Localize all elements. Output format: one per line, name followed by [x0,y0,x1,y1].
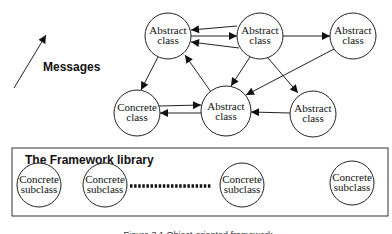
svg-text:subclass: subclass [87,183,124,195]
subclass-node: Concrete subclass [17,163,61,207]
figure-caption: Figure 3.1 Object-oriented framework [123,230,273,234]
edge-c1-a4 [159,105,201,106]
messages-label: Messages [43,60,101,74]
class-node-c1: Concrete class [114,90,160,136]
edge-a2-a5 [268,58,298,93]
class-node-a1: Abstract class [145,13,191,59]
edge-a1-c1 [141,57,158,90]
svg-text:class: class [342,34,363,46]
edge-a2-a4 [231,57,250,86]
class-node-a4: Abstract class [201,86,251,136]
svg-text:class: class [249,34,270,46]
class-node-a2: Abstract class [237,13,283,59]
messages-legend: Messages [14,35,101,88]
svg-text:class: class [302,112,323,124]
subclass-node: Concrete subclass [220,163,264,207]
framework-library: The Framework library Concrete subclass … [12,148,388,216]
svg-text:subclass: subclass [224,183,261,195]
class-node-a3: Abstract class [330,13,376,59]
svg-text:class: class [215,110,236,122]
edge-a4-a1 [185,55,211,92]
message-arrow-icon [14,35,46,88]
framework-diagram: Messages Abstract class Abstract class [0,0,392,234]
subclass-node: Concrete subclass [83,163,127,207]
edge-a5-a4 [251,112,290,113]
svg-text:subclass: subclass [334,181,371,193]
edge-a2-a1-bottom [191,42,239,48]
subclass-node: Concrete subclass [330,161,374,205]
svg-text:subclass: subclass [21,183,58,195]
edge-a2-a1-top [191,26,237,30]
class-node-a5: Abstract class [290,91,336,137]
svg-text:class: class [157,34,178,46]
svg-text:class: class [126,111,147,123]
